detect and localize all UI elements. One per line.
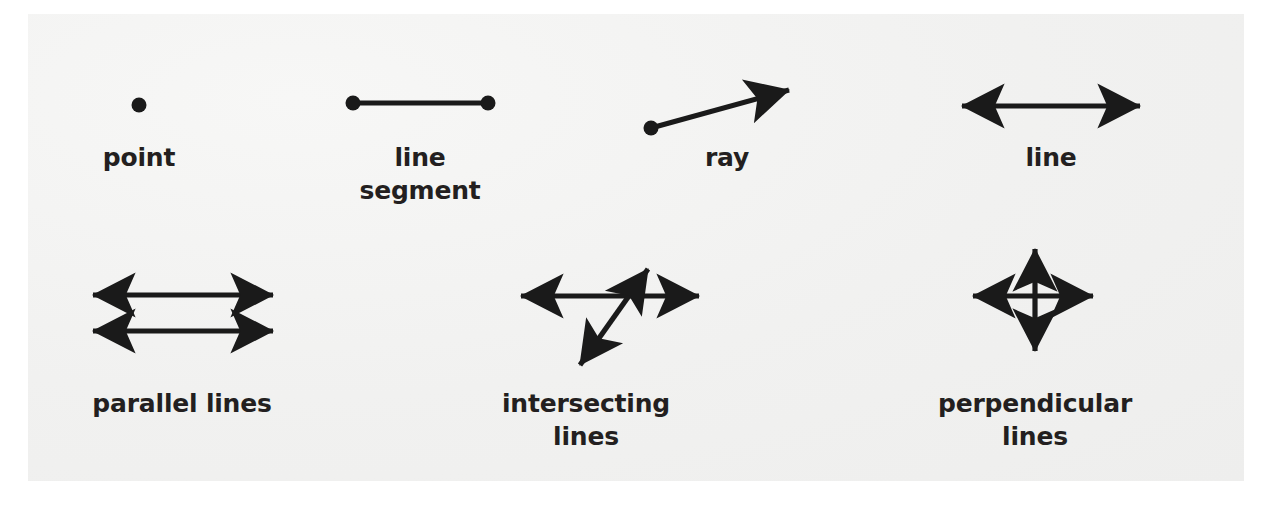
glyph-parallel-lines	[93, 295, 273, 331]
segment-endpoint-dot-left-icon	[346, 96, 361, 111]
geometry-diagram-canvas: point line segment ray line parallel lin…	[0, 0, 1283, 505]
label-parallel-lines: parallel lines	[92, 389, 271, 418]
segment-endpoint-dot-right-icon	[481, 96, 496, 111]
label-line: line	[1025, 143, 1076, 172]
glyph-point	[132, 98, 147, 113]
geometry-terms-figure: point line segment ray line parallel lin…	[0, 0, 1283, 505]
label-intersecting-lines-row1: intersecting	[502, 389, 670, 418]
label-ray: ray	[705, 143, 749, 172]
label-point: point	[103, 143, 176, 172]
ray-stroke	[651, 90, 789, 128]
label-perpendicular-lines-row2: lines	[1002, 422, 1068, 451]
ray-endpoint-dot-icon	[644, 121, 659, 136]
label-line-segment-row1: line	[394, 143, 445, 172]
point-dot-icon	[132, 98, 147, 113]
glyph-intersecting-lines	[521, 269, 699, 365]
glyph-ray	[644, 90, 790, 136]
label-line-segment-row2: segment	[359, 176, 480, 205]
label-perpendicular-lines-row1: perpendicular	[938, 389, 1133, 418]
label-intersecting-lines-row2: lines	[553, 422, 619, 451]
glyph-perpendicular-lines	[973, 249, 1093, 351]
glyph-line-segment	[346, 96, 496, 111]
intersecting-diagonal-stroke	[580, 269, 648, 365]
